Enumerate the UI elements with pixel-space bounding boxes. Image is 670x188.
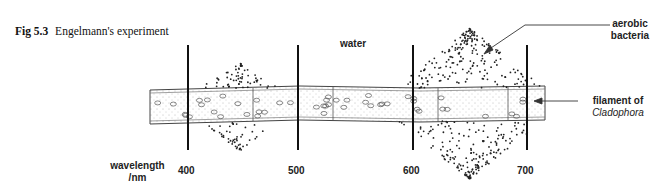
arrowhead-icon [484,45,493,54]
axis-label: wavelength /nm [100,160,175,184]
tick-400: 400 [178,165,195,176]
filament-label: filament of Cladophora [578,95,658,119]
filament [150,86,545,124]
water-label: water [340,38,366,49]
tick-500: 500 [288,165,305,176]
tick-700: 700 [517,165,534,176]
bacteria-pointer [488,25,610,50]
tick-600: 600 [403,165,420,176]
bacteria-label: aerobic bacteria [600,18,660,42]
